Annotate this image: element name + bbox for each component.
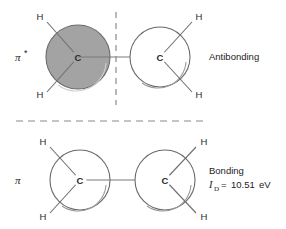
energy-variable: I [208, 179, 213, 190]
antibonding-orbital-star: * [24, 48, 28, 58]
diagram-root: C H H C H H π * Antibonding C [0, 0, 286, 229]
antibonding-orbital-symbol: π [15, 51, 21, 63]
antibonding-right-h-upper-label: H [196, 11, 203, 22]
bonding-left-carbon-label: C [77, 175, 84, 186]
energy-subscript: D [214, 185, 219, 193]
antibonding-left-h-upper-label: H [37, 11, 44, 22]
antibonding-right-carbon-label: C [157, 52, 164, 63]
energy-equals: = [221, 179, 227, 190]
antibonding-left-h-lower-label: H [37, 89, 44, 100]
energy-unit: eV [259, 179, 271, 190]
bonding-left-h-upper-label: H [40, 136, 47, 147]
bonding-right-h-lower-label: H [201, 211, 208, 222]
bonding-right-h-upper-label: H [201, 136, 208, 147]
antibonding-right-h-lower-label: H [196, 89, 203, 100]
energy-number: 10.51 [231, 179, 255, 190]
bonding-left-h-lower-label: H [40, 211, 47, 222]
bonding-side-label: Bonding [209, 165, 244, 176]
bonding-orbital-symbol: π [15, 174, 21, 186]
bonding-right-carbon-label: C [162, 175, 169, 186]
orbital-diagram: C H H C H H π * Antibonding C [0, 0, 286, 229]
antibonding-side-label: Antibonding [209, 51, 259, 62]
bonding-energy-value: I D = 10.51 eV [208, 179, 271, 193]
